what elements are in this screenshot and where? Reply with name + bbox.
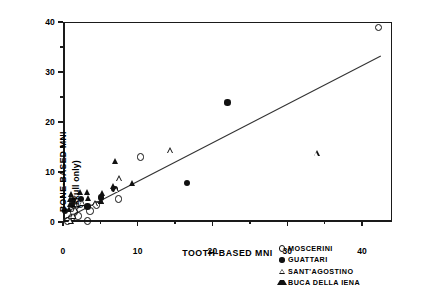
open-circle-icon xyxy=(276,245,288,252)
legend-item-sant-agostino[interactable]: SANT'AGOSTINO xyxy=(276,266,360,277)
legend-item-label: MOSCERINI xyxy=(288,244,333,253)
y-axis-title: BONE-BASED MNI (skull only) xyxy=(59,82,79,212)
legend-item-label: GUATTARI xyxy=(288,255,328,264)
data-point-buca-della-iena xyxy=(129,180,135,186)
y-tick-label: 20 xyxy=(45,117,55,127)
data-point-buca-della-iena xyxy=(98,198,104,204)
legend-item-guattari[interactable]: GUATTARI xyxy=(276,254,360,265)
data-point-guattari xyxy=(84,203,90,209)
y-tick-label: 40 xyxy=(45,17,55,27)
data-point-moscerini xyxy=(84,217,91,224)
data-point-buca-della-iena xyxy=(110,183,116,189)
data-point-sant-agostino xyxy=(314,150,320,156)
data-point-buca-della-iena xyxy=(85,195,91,201)
data-point-buca-della-iena xyxy=(112,158,118,164)
data-point-sant-agostino xyxy=(70,213,76,219)
data-point-sant-agostino xyxy=(167,147,173,153)
legend-item-buca-della-iena[interactable]: BUCA DELLA IENA xyxy=(276,277,360,288)
data-point-sant-agostino xyxy=(116,175,122,181)
filled-triangle-icon xyxy=(276,280,288,285)
plot-area: 010203040 010203040 BONE-BASED MNI (skul… xyxy=(63,22,392,222)
data-point-moscerini xyxy=(115,195,122,202)
y-tick-label: 0 xyxy=(50,217,55,227)
y-axis-title-line2: (skull only) xyxy=(71,160,81,208)
filled-circle-icon xyxy=(276,257,288,262)
y-axis-title-line1: BONE-BASED MNI xyxy=(58,131,68,212)
open-triangle-icon xyxy=(276,269,288,274)
legend-item-moscerini[interactable]: MOSCERINI xyxy=(276,243,360,254)
regression-line xyxy=(63,22,392,222)
y-tick-label: 30 xyxy=(45,67,55,77)
legend-item-label: SANT'AGOSTINO xyxy=(288,267,353,276)
legend: MOSCERINIGUATTARISANT'AGOSTINOBUCA DELLA… xyxy=(276,243,360,288)
data-point-buca-della-iena xyxy=(99,190,105,196)
y-tick-label: 10 xyxy=(45,167,55,177)
legend-item-label: BUCA DELLA IENA xyxy=(288,278,360,287)
data-point-moscerini xyxy=(137,153,144,160)
data-point-guattari xyxy=(224,99,230,105)
scatter-plot-figure: 010203040 010203040 BONE-BASED MNI (skul… xyxy=(0,0,434,295)
